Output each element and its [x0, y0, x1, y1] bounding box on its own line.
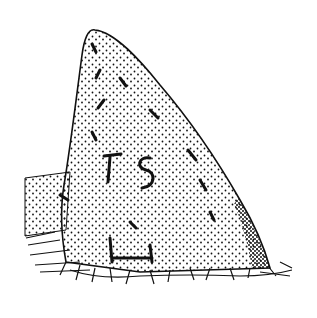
stone: [62, 30, 270, 272]
stone-illustration: [0, 0, 317, 318]
stone-drawing: [0, 0, 317, 318]
